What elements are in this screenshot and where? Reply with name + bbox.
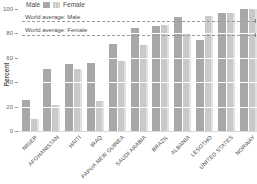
bar-female-brazil: [161, 25, 169, 131]
bar-female-united-states: [227, 13, 235, 131]
y-tick-label-20: 20: [0, 104, 13, 110]
bar-male-saudi-arabia: [131, 28, 139, 131]
literacy-bar-chart: Male Female Percent NIGERAFGHANISTANHAIT…: [0, 0, 257, 184]
x-axis-line: [18, 131, 257, 132]
y-tick-mark-60: [15, 58, 18, 59]
bar-male-brazil: [152, 26, 160, 131]
gridline-40: [20, 82, 257, 83]
x-label-iraq: IRAQ: [89, 134, 103, 148]
y-tick-mark-0: [15, 131, 18, 132]
x-label-brazil: BRAZIL: [150, 134, 169, 153]
bar-male-lesotho: [196, 40, 204, 131]
x-label-haiti: HAITI: [67, 134, 82, 149]
y-tick-mark-100: [15, 9, 18, 10]
bar-female-norway: [249, 9, 257, 131]
x-label-niger: NIGER: [21, 134, 38, 151]
reference-label-world-average-female: World average: Female: [25, 27, 87, 33]
x-label-norway: NORWAY: [234, 134, 256, 156]
bar-male-united-states: [218, 13, 226, 131]
bar-female-haiti: [74, 69, 82, 131]
y-tick-label-0: 0: [0, 128, 13, 134]
bar-female-papua-new-guinea: [118, 61, 126, 131]
gridline-60: [20, 58, 257, 59]
reference-line-endcap-world-average-male: [255, 19, 256, 23]
bar-female-niger: [31, 119, 39, 131]
y-tick-mark-80: [15, 33, 18, 34]
bar-male-haiti: [65, 64, 73, 131]
y-tick-label-100: 100: [0, 6, 13, 12]
bar-male-afghanistan: [43, 69, 51, 131]
reference-line-endcap-world-average-female: [255, 33, 256, 37]
reference-line-world-average-female: [22, 35, 255, 36]
y-tick-mark-40: [15, 82, 18, 83]
bar-male-niger: [22, 100, 30, 131]
x-label-albania: ALBANIA: [169, 134, 191, 156]
bar-female-afghanistan: [52, 105, 60, 131]
reference-line-world-average-male: [22, 21, 255, 22]
y-tick-label-40: 40: [0, 79, 13, 85]
y-tick-mark-20: [15, 107, 18, 108]
y-tick-label-60: 60: [0, 55, 13, 61]
reference-label-world-average-male: World average: Male: [25, 14, 80, 20]
plot-area: NIGERAFGHANISTANHAITIIRAQPAPUA NEW GUINE…: [0, 0, 257, 184]
bar-male-norway: [240, 9, 248, 131]
y-tick-label-80: 80: [0, 30, 13, 36]
gridline-20: [20, 107, 257, 108]
bar-male-iraq: [87, 63, 95, 131]
